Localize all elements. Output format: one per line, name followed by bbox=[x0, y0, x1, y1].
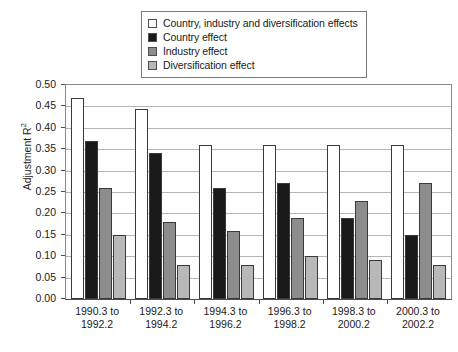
x-axis-label-line: 1992.3 to bbox=[129, 305, 193, 318]
x-axis-tick-mark bbox=[387, 299, 388, 304]
y-axis-tick-mark bbox=[61, 105, 65, 106]
x-axis-labels: 1990.3 to1992.21992.3 to1994.21994.3 to1… bbox=[65, 305, 450, 331]
x-axis-label: 1992.3 to1994.2 bbox=[129, 305, 193, 331]
legend-swatch bbox=[148, 47, 157, 56]
y-axis-title-text: Adjustment R bbox=[21, 127, 33, 190]
legend-swatch bbox=[148, 33, 157, 42]
bar-chart: Country, industry and diversification ef… bbox=[0, 0, 458, 352]
bar-group bbox=[194, 85, 258, 299]
y-axis-tick-label: 0.30 bbox=[16, 165, 56, 175]
x-axis-label-line: 1996.3 to bbox=[258, 305, 322, 318]
plot-area bbox=[65, 84, 452, 300]
x-axis-label-line: 1994.2 bbox=[129, 318, 193, 331]
y-axis-tick-mark bbox=[61, 148, 65, 149]
y-axis-tick-mark bbox=[61, 127, 65, 128]
y-axis-tick-mark bbox=[61, 277, 65, 278]
bar[interactable] bbox=[355, 201, 368, 299]
x-axis-label-line: 2002.2 bbox=[386, 318, 450, 331]
x-axis-tick-mark bbox=[323, 299, 324, 304]
y-axis-tick-mark bbox=[61, 191, 65, 192]
bar[interactable] bbox=[433, 265, 446, 299]
legend-item-label: Country, industry and diversification ef… bbox=[163, 17, 358, 29]
bar[interactable] bbox=[241, 265, 254, 299]
y-axis-tick-mark bbox=[61, 234, 65, 235]
x-axis-tick-mark bbox=[194, 299, 195, 304]
bar[interactable] bbox=[177, 265, 190, 299]
bar-groups bbox=[66, 85, 451, 299]
legend-item-label: Country effect bbox=[163, 31, 227, 43]
chart-legend: Country, industry and diversification ef… bbox=[141, 11, 367, 78]
legend-swatch bbox=[148, 19, 157, 28]
y-axis-title: Adjustment R2 bbox=[19, 97, 33, 217]
x-axis-label-line: 1990.3 to bbox=[65, 305, 129, 318]
bar[interactable] bbox=[305, 256, 318, 299]
bar[interactable] bbox=[391, 145, 404, 299]
x-axis-tick-mark bbox=[130, 299, 131, 304]
bar[interactable] bbox=[199, 145, 212, 299]
y-axis-tick-mark bbox=[61, 255, 65, 256]
x-axis-label-line: 1998.2 bbox=[258, 318, 322, 331]
y-axis-tick-mark bbox=[61, 212, 65, 213]
x-axis-tick-mark bbox=[259, 299, 260, 304]
x-axis-label: 1996.3 to1998.2 bbox=[258, 305, 322, 331]
y-axis-tick-label: 0.45 bbox=[16, 100, 56, 110]
y-axis-tick-label: 0.20 bbox=[16, 207, 56, 217]
y-axis-tick-label: 0.35 bbox=[16, 143, 56, 153]
bar[interactable] bbox=[113, 235, 126, 299]
legend-item[interactable]: Diversification effect bbox=[148, 58, 358, 72]
legend-item[interactable]: Country, industry and diversification ef… bbox=[148, 16, 358, 30]
bar[interactable] bbox=[369, 260, 382, 299]
legend-swatch bbox=[148, 61, 157, 70]
y-axis-tick-label: 0.50 bbox=[16, 79, 56, 89]
bar[interactable] bbox=[291, 218, 304, 299]
x-axis-label-line: 2000.2 bbox=[322, 318, 386, 331]
legend-item[interactable]: Country effect bbox=[148, 30, 358, 44]
y-axis-tick-label: 0.10 bbox=[16, 250, 56, 260]
bar[interactable] bbox=[135, 109, 148, 299]
y-axis-tick-label: 0.40 bbox=[16, 122, 56, 132]
x-axis-label-line: 1996.2 bbox=[193, 318, 257, 331]
bar[interactable] bbox=[163, 222, 176, 299]
bar-group bbox=[259, 85, 323, 299]
bar-group bbox=[387, 85, 451, 299]
bar[interactable] bbox=[71, 98, 84, 299]
bar-group bbox=[323, 85, 387, 299]
bar[interactable] bbox=[227, 231, 240, 299]
y-axis-tick-label: 0.05 bbox=[16, 272, 56, 282]
legend-item[interactable]: Industry effect bbox=[148, 44, 358, 58]
y-axis-tick-label: 0.00 bbox=[16, 293, 56, 303]
bar[interactable] bbox=[405, 235, 418, 299]
bar[interactable] bbox=[419, 183, 432, 299]
bar[interactable] bbox=[341, 218, 354, 299]
y-axis-tick-mark bbox=[61, 298, 65, 299]
legend-item-label: Industry effect bbox=[163, 45, 227, 57]
x-axis-label: 1994.3 to1996.2 bbox=[193, 305, 257, 331]
bar[interactable] bbox=[99, 188, 112, 299]
bar-group bbox=[130, 85, 194, 299]
bar[interactable] bbox=[263, 145, 276, 299]
y-axis-tick-label: 0.25 bbox=[16, 186, 56, 196]
x-axis-label-line: 2000.3 to bbox=[386, 305, 450, 318]
bar[interactable] bbox=[213, 188, 226, 299]
x-axis-label-line: 1992.2 bbox=[65, 318, 129, 331]
x-axis-label: 2000.3 to2002.2 bbox=[386, 305, 450, 331]
bar[interactable] bbox=[277, 183, 290, 299]
x-axis-label-line: 1994.3 to bbox=[193, 305, 257, 318]
bar[interactable] bbox=[85, 141, 98, 299]
bar-group bbox=[66, 85, 130, 299]
y-axis-tick-mark bbox=[61, 84, 65, 85]
x-axis-label-line: 1998.3 to bbox=[322, 305, 386, 318]
bar[interactable] bbox=[327, 145, 340, 299]
bar[interactable] bbox=[149, 153, 162, 299]
x-axis-label: 1990.3 to1992.2 bbox=[65, 305, 129, 331]
y-axis-tick-label: 0.15 bbox=[16, 229, 56, 239]
y-axis-tick-mark bbox=[61, 170, 65, 171]
legend-item-label: Diversification effect bbox=[163, 59, 255, 71]
x-axis-label: 1998.3 to2000.2 bbox=[322, 305, 386, 331]
